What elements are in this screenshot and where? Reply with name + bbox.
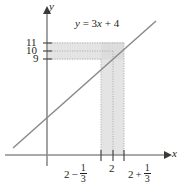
equation-plus: + — [105, 17, 111, 29]
x-tick-right-numerator: 1 — [144, 163, 151, 173]
x-tick-left-denominator: 3 — [80, 173, 87, 184]
equation-equals: = — [83, 17, 89, 29]
y-tick-label-9: 9 — [33, 53, 39, 64]
x-axis-arrowhead — [164, 151, 172, 159]
equation-variable: x — [97, 17, 102, 29]
x-tick-label-mid: 2 — [109, 163, 115, 174]
graph-figure: 11 10 9 2−13 2 2+13 y = 3x + 4 y x — [0, 0, 184, 187]
x-tick-left-fraction: 13 — [80, 163, 87, 184]
x-tick-left-sign: − — [72, 168, 78, 180]
x-tick-right-fraction: 13 — [144, 163, 151, 184]
y-axis-label: y — [49, 1, 54, 12]
x-tick-label-right: 2+13 — [128, 163, 151, 184]
equation-label: y = 3x + 4 — [75, 18, 119, 29]
x-tick-right-whole: 2 — [128, 168, 134, 180]
x-tick-label-left: 2−13 — [64, 163, 87, 184]
x-tick-left-whole: 2 — [64, 168, 70, 180]
x-tick-left-numerator: 1 — [80, 163, 87, 173]
equation-lhs: y — [75, 17, 80, 29]
x-tick-right-denominator: 3 — [144, 173, 151, 184]
x-tick-right-sign: + — [136, 168, 142, 180]
x-axis-label: x — [172, 148, 177, 159]
equation-intercept: 4 — [114, 17, 120, 29]
